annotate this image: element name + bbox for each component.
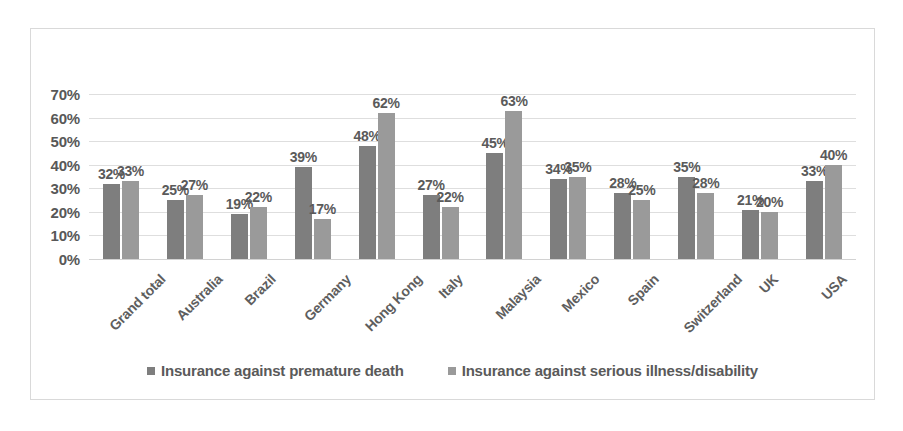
bar-column: 21% xyxy=(742,94,759,259)
x-axis-tick-label: UK xyxy=(756,271,781,296)
legend-label: Insurance against premature death xyxy=(161,362,404,379)
bar-column: 63% xyxy=(505,94,522,259)
bar[interactable] xyxy=(231,214,248,259)
chart-container: 70%60%50%40%30%20%10%0% 32%33%25%27%19%2… xyxy=(30,28,875,400)
bar[interactable] xyxy=(505,111,522,260)
bar-groups: 32%33%25%27%19%22%39%17%48%62%27%22%45%6… xyxy=(89,94,856,259)
bar-value-label: 39% xyxy=(290,149,317,165)
y-axis-tick-label: 20% xyxy=(51,203,80,220)
x-axis-tick-label: Spain xyxy=(625,271,663,309)
bar-column: 45% xyxy=(486,94,503,259)
bar[interactable] xyxy=(550,179,567,259)
bar-column: 40% xyxy=(825,94,842,259)
bar[interactable] xyxy=(250,207,267,259)
gridline xyxy=(89,259,856,260)
bar-column: 33% xyxy=(806,94,823,259)
bar[interactable] xyxy=(442,207,459,259)
y-axis-tick-label: 10% xyxy=(51,227,80,244)
bar-group: 34%35% xyxy=(536,94,600,259)
bar[interactable] xyxy=(806,181,823,259)
bar-value-label: 35% xyxy=(564,159,591,175)
bar-column: 48% xyxy=(359,94,376,259)
bar[interactable] xyxy=(742,210,759,260)
legend-item[interactable]: Insurance against serious illness/disabi… xyxy=(448,362,758,379)
y-axis-tick-label: 70% xyxy=(51,86,80,103)
bar[interactable] xyxy=(761,212,778,259)
bar-group: 39%17% xyxy=(281,94,345,259)
x-axis-category: UK xyxy=(728,265,792,345)
bar-column: 22% xyxy=(442,94,459,259)
bar-group: 21%20% xyxy=(728,94,792,259)
x-axis-tick-label: Mexico xyxy=(559,271,603,315)
x-axis-category: Spain xyxy=(600,265,664,345)
y-axis-tick-label: 40% xyxy=(51,156,80,173)
bar-group: 25%27% xyxy=(153,94,217,259)
y-axis-tick-label: 60% xyxy=(51,109,80,126)
bar[interactable] xyxy=(122,181,139,259)
bar[interactable] xyxy=(378,113,395,259)
y-axis-tick-label: 0% xyxy=(59,251,80,268)
bar-value-label: 22% xyxy=(437,189,464,205)
bar-column: 27% xyxy=(423,94,440,259)
x-axis-category: Mexico xyxy=(536,265,600,345)
bar-value-label: 33% xyxy=(801,163,828,179)
bar-column: 22% xyxy=(250,94,267,259)
bar-value-label: 45% xyxy=(481,135,508,151)
bar[interactable] xyxy=(633,200,650,259)
bar-group: 32%33% xyxy=(89,94,153,259)
x-axis-category: Hong Kong xyxy=(345,265,409,345)
bar-value-label: 20% xyxy=(756,194,783,210)
bar-column: 17% xyxy=(314,94,331,259)
legend-item[interactable]: Insurance against premature death xyxy=(147,362,404,379)
bar-column: 19% xyxy=(231,94,248,259)
bar[interactable] xyxy=(825,165,842,259)
x-axis-category: Brazil xyxy=(217,265,281,345)
bar-group: 35%28% xyxy=(664,94,728,259)
bar-column: 34% xyxy=(550,94,567,259)
bar[interactable] xyxy=(614,193,631,259)
bar-group: 33%40% xyxy=(792,94,856,259)
plot-area: 70%60%50%40%30%20%10%0% 32%33%25%27%19%2… xyxy=(89,94,856,259)
bar[interactable] xyxy=(569,177,586,260)
bar-value-label: 35% xyxy=(673,159,700,175)
x-axis-category: Germany xyxy=(281,265,345,345)
bar-column: 28% xyxy=(697,94,714,259)
legend-label: Insurance against serious illness/disabi… xyxy=(462,362,758,379)
y-axis-tick-label: 30% xyxy=(51,180,80,197)
bar-value-label: 28% xyxy=(692,175,719,191)
bar[interactable] xyxy=(167,200,184,259)
bar[interactable] xyxy=(697,193,714,259)
bar-column: 35% xyxy=(569,94,586,259)
bar-column: 28% xyxy=(614,94,631,259)
x-axis-category: Switzerland xyxy=(664,265,728,345)
bar[interactable] xyxy=(359,146,376,259)
bar-value-label: 33% xyxy=(117,163,144,179)
bar-group: 19%22% xyxy=(217,94,281,259)
bar[interactable] xyxy=(186,195,203,259)
bar-column: 33% xyxy=(122,94,139,259)
bar-column: 27% xyxy=(186,94,203,259)
bar[interactable] xyxy=(486,153,503,259)
x-axis-category-labels: Grand totalAustraliaBrazilGermanyHong Ko… xyxy=(89,265,856,345)
bar-value-label: 40% xyxy=(820,147,847,163)
bar-column: 25% xyxy=(633,94,650,259)
bar-value-label: 17% xyxy=(309,201,336,217)
y-axis-tick-label: 50% xyxy=(51,133,80,150)
x-axis-tick-label: Italy xyxy=(435,271,465,301)
bar[interactable] xyxy=(103,184,120,259)
bar-value-label: 22% xyxy=(245,189,272,205)
bar[interactable] xyxy=(314,219,331,259)
x-axis-tick-label: Brazil xyxy=(241,271,278,308)
x-axis-category: Italy xyxy=(409,265,473,345)
bar-group: 27%22% xyxy=(409,94,473,259)
chart-legend: Insurance against premature deathInsuran… xyxy=(31,362,874,379)
x-axis-tick-label: USA xyxy=(818,271,850,303)
bar-value-label: 48% xyxy=(354,128,381,144)
legend-square-marker-icon xyxy=(448,367,456,375)
legend-square-marker-icon xyxy=(147,367,155,375)
x-axis-category: Grand total xyxy=(89,265,153,345)
bar-group: 48%62% xyxy=(345,94,409,259)
bar-group: 28%25% xyxy=(600,94,664,259)
bar-column: 39% xyxy=(295,94,312,259)
x-axis-category: USA xyxy=(792,265,856,345)
